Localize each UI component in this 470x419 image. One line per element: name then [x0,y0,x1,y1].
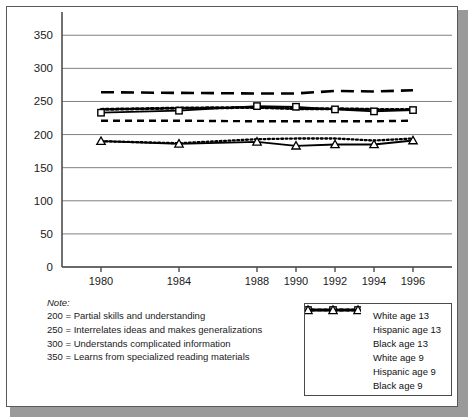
y-tick-label: 50 [40,228,53,240]
legend-label: Black age 9 [373,380,423,392]
legend-item-black-age-9: Black age 9 [305,379,451,393]
x-tick-label: 1994 [362,275,386,287]
y-tick-label: 150 [34,162,53,174]
data-point-square [332,106,338,112]
x-tick-label: 1992 [323,275,347,287]
legend-label: Hispanic age 13 [373,324,441,336]
data-point-square [371,108,377,114]
legend-item-hispanic-age-13: Hispanic age 13 [305,323,451,337]
legend-swatch-square-solid [311,338,367,350]
y-tick-label: 300 [34,62,53,74]
x-tick-label: 1988 [245,275,269,287]
x-tick-label: 1990 [284,275,308,287]
note-line-2: 300 = Understands complicated informatio… [47,337,297,351]
data-point-square [176,108,182,114]
legend-item-hispanic-age-9: Hispanic age 9 [305,365,451,379]
legend-swatch-fine-dotted [311,366,367,378]
x-tick-label: 1980 [89,275,113,287]
series-line-0 [101,90,413,93]
legend-label: White age 13 [373,310,429,322]
x-tick-label: 1984 [167,275,191,287]
data-point-square [293,104,299,110]
data-point-square [98,110,104,116]
legend-label: White age 9 [373,352,424,364]
y-tick-label: 250 [34,95,53,107]
note-block: Note: 200 = Partial skills and understan… [47,296,297,364]
note-line-3: 350 = Learns from specialized reading ma… [47,350,297,364]
y-tick-label: 350 [34,29,53,41]
data-point-square [254,103,260,109]
figure-frame: 0501001502002503003501980198419881990199… [0,0,470,419]
note-line-0: 200 = Partial skills and understanding [47,309,297,323]
x-tick-label: 1996 [401,275,425,287]
y-tick-label: 100 [34,195,53,207]
legend-swatch-short-dash [311,352,367,364]
legend-label: Black age 13 [373,338,428,350]
legend-swatch-triangle-solid [311,380,367,392]
legend-swatch-thick-dotted [311,324,367,336]
chart-legend: White age 13 Hispanic age 13 Black age 1… [304,303,452,396]
series-line-3 [101,121,413,122]
note-title: Note: [47,296,297,309]
note-line-1: 250 = Interrelates ideas and makes gener… [47,323,297,337]
y-tick-label: 0 [47,261,53,273]
legend-label: Hispanic age 9 [373,366,436,378]
legend-line-sample [305,304,361,316]
y-tick-label: 200 [34,129,53,141]
legend-item-white-age-9: White age 9 [305,351,451,365]
legend-item-black-age-13: Black age 13 [305,337,451,351]
data-point-square [410,107,416,113]
